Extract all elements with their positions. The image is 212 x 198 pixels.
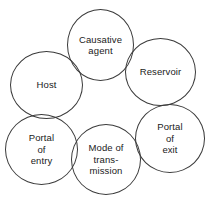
diagram-node-label-reservoir: Reservoir: [136, 66, 186, 78]
diagram-node-mode-of-transmission: Mode of trans- mission: [71, 124, 141, 195]
diagram-node-reservoir: Reservoir: [125, 38, 196, 106]
diagram-node-portal-of-entry: Portal of entry: [5, 114, 78, 185]
diagram-node-host: Host: [10, 51, 83, 119]
diagram-node-label-host: Host: [33, 79, 61, 91]
diagram-node-portal-of-exit: Portal of exit: [135, 104, 205, 173]
diagram-node-label-mode-of-transmission: Mode of trans- mission: [84, 142, 127, 177]
chain-of-infection-diagram: Causative agent Reservoir Host Portal of…: [0, 0, 212, 198]
diagram-node-label-portal-of-entry: Portal of entry: [25, 132, 58, 167]
diagram-node-label-portal-of-exit: Portal of exit: [153, 121, 186, 156]
diagram-node-label-causative-agent: Causative agent: [75, 34, 126, 57]
